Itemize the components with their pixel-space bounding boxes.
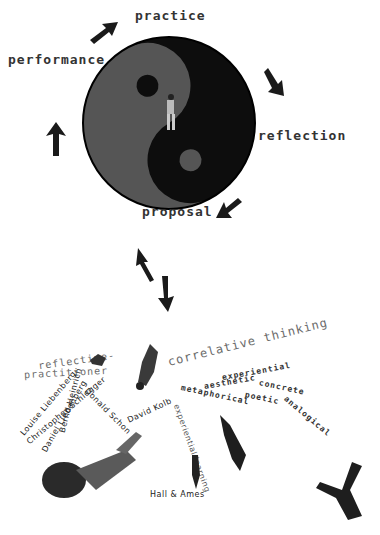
figure-right-mid-icon	[216, 415, 252, 475]
label-performance: performance	[8, 52, 105, 67]
arrow-down-left-icon	[216, 198, 244, 220]
arrow-down-right-icon	[262, 68, 286, 98]
name-hall-ames: Hall & Ames	[150, 490, 205, 499]
figure-right-bottom-icon	[312, 460, 368, 522]
name-david: David Kolb	[126, 396, 173, 424]
arrow-down-icon	[156, 276, 176, 312]
figure-reflective-icon	[88, 352, 108, 368]
yin-yang-symbol	[81, 35, 257, 211]
arrow-up-icon	[46, 122, 66, 156]
arrow-up-left-icon	[134, 248, 156, 284]
figure-large-left-icon	[36, 430, 146, 500]
label-analogical: analogical	[282, 394, 332, 438]
name-donald: Donald Schon	[83, 386, 133, 436]
figure-small-top-icon	[130, 342, 170, 392]
label-reflection: reflection	[258, 128, 346, 143]
label-practice: practice	[135, 8, 206, 23]
label-correlative-thinking: correlative thinking	[166, 315, 329, 368]
label-poetic: poetic	[244, 390, 280, 406]
figure-small-mid-icon	[188, 455, 202, 489]
arrow-up-right-icon	[88, 20, 120, 44]
label-proposal: proposal	[142, 204, 213, 219]
